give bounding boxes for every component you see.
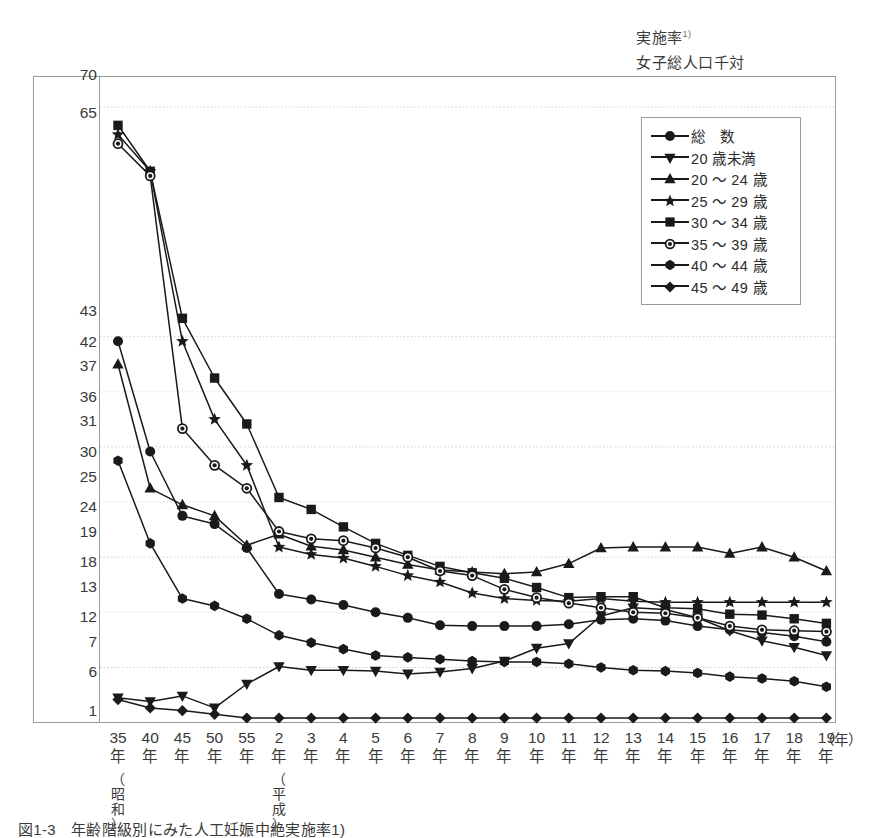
y-axis-tick-label: 65 [33, 105, 97, 121]
data-point-triangle-up [664, 173, 675, 183]
y-axis-tick-label: 18 [33, 554, 97, 570]
legend-item-5[interactable]: 35 ～ 39 歳 [649, 233, 791, 255]
legend-marker-icon [649, 168, 691, 190]
x-tick-nen: 年 [806, 747, 846, 766]
legend-label: 25 ～ 29 歳 [691, 190, 767, 211]
legend-item-2[interactable]: 20 ～ 24 歳 [649, 168, 791, 190]
y-axis-tick-label: 37 [33, 358, 97, 374]
data-point-circle [665, 131, 675, 141]
unit-footnote-marker: 1) [683, 29, 692, 39]
legend-item-4[interactable]: 30 ～ 34 歳 [649, 211, 791, 233]
legend-item-6[interactable]: 40 ～ 44 歳 [649, 254, 791, 276]
y-axis-tick-label: 6 [33, 664, 97, 680]
legend-label: 45 ～ 49 歳 [691, 276, 767, 297]
legend-symbol-circle-ring-icon [649, 233, 691, 255]
chart-page: 実施率1) 女子総人口千対 70654342373631302524191813… [0, 0, 869, 838]
y-axis-tick-label: 36 [33, 389, 97, 405]
y-axis-tick-label: 13 [33, 579, 97, 595]
legend-label: 35 ～ 39 歳 [691, 233, 767, 254]
legend-symbol-square-icon [649, 211, 691, 233]
unit-rate-label: 実施率1) [636, 22, 856, 50]
legend-symbol-circle-icon [649, 125, 691, 147]
y-axis-tick-label: 70 [33, 67, 97, 83]
legend-item-1[interactable]: 20 歳未満 [649, 147, 791, 169]
legend-symbol-star-icon [649, 190, 691, 212]
legend-marker-icon [649, 147, 691, 169]
y-axis-line [99, 76, 100, 723]
chart-legend: 総 数20 歳未満20 ～ 24 歳25 ～ 29 歳30 ～ 34 歳35 ～… [641, 117, 801, 305]
y-axis-tick-label: 7 [33, 634, 97, 650]
legend-marker-icon [649, 276, 691, 298]
legend-label: 40 ～ 44 歳 [691, 254, 767, 275]
legend-marker-icon [649, 190, 691, 212]
legend-symbol-triangle-down-icon [649, 147, 691, 169]
data-point-circle-ring [665, 238, 676, 249]
y-axis-tick-label: 30 [33, 444, 97, 460]
y-axis-tick-label: 12 [33, 609, 97, 625]
data-point-square [665, 217, 674, 226]
y-axis-tick-label: 25 [33, 469, 97, 485]
legend-label: 総 数 [691, 125, 734, 146]
unit-rate-text: 実施率 [636, 29, 683, 46]
legend-symbol-triangle-up-icon [649, 168, 691, 190]
legend-item-0[interactable]: 総 数 [649, 125, 791, 147]
figure-caption: 図1-3 年齢階級別にみた人工妊娠中絶実施率1) [18, 818, 345, 838]
y-axis-tick-label: 31 [33, 413, 97, 429]
unit-denominator: 女子総人口千対 [636, 50, 856, 75]
legend-marker-icon [649, 211, 691, 233]
legend-label: 30 ～ 34 歳 [691, 211, 767, 232]
legend-marker-icon [649, 254, 691, 276]
x-tick-number: 19 [806, 728, 846, 747]
unit-header: 実施率1) 女子総人口千対 [636, 22, 856, 75]
data-point-triangle-down [664, 153, 675, 163]
y-axis-labels: 7065434237363130252419181312761 [33, 76, 97, 723]
x-axis-tick-label: 19年 [806, 728, 846, 766]
legend-symbol-hexagon-icon [649, 254, 691, 276]
legend-marker-icon [649, 125, 691, 147]
legend-label: 20 ～ 24 歳 [691, 168, 767, 189]
y-axis-tick-label: 1 [33, 703, 97, 719]
legend-label: 20 歳未満 [691, 147, 756, 168]
legend-symbol-diamond-icon [649, 276, 691, 298]
y-axis-tick-label: 43 [33, 303, 97, 319]
data-point-star [664, 194, 676, 206]
x-axis-labels: （年） 35年40年45年50年55年2年3年4年5年6年7年8年9年10年11… [0, 726, 869, 786]
legend-marker-icon [649, 233, 691, 255]
legend-item-7[interactable]: 45 ～ 49 歳 [649, 276, 791, 298]
y-axis-tick-label: 19 [33, 524, 97, 540]
data-point-diamond [665, 281, 676, 292]
legend-item-3[interactable]: 25 ～ 29 歳 [649, 190, 791, 212]
data-point-hexagon [666, 260, 675, 270]
y-axis-tick-label: 42 [33, 334, 97, 350]
y-axis-tick-label: 24 [33, 499, 97, 515]
